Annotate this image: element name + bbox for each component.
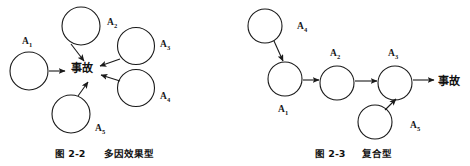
node-circle-r-a4[interactable] (248, 9, 282, 43)
figure-container: 事故 A1 A2 A3 A4 A5 图 2-2 多因效果型 (0, 0, 470, 166)
diagram-canvas: 事故 A1 A2 A3 A4 A5 图 2-2 多因效果型 (0, 0, 470, 166)
right-outcome-label: 事故 (438, 74, 461, 88)
caption-right-title: 复合型 (361, 148, 392, 159)
node-circle-r-a2[interactable] (320, 66, 354, 100)
node-label-r-a3: A3 (388, 48, 399, 60)
edge-r-a4-to-a1 (274, 41, 283, 61)
node-circle-a1[interactable] (10, 52, 48, 90)
node-label-a1: A1 (22, 36, 32, 48)
node-circle-a4[interactable] (118, 70, 155, 107)
node-label-a2: A2 (107, 17, 117, 29)
edge-a4-to-center (101, 75, 120, 81)
node-circle-r-a5[interactable] (358, 105, 392, 139)
edge-a5-to-center (78, 82, 88, 96)
node-label-r-a4: A4 (297, 21, 308, 33)
figure-right-group: 事故 A4 A1 A2 A3 A5 图 2-3 复合型 (248, 9, 461, 159)
caption-right-number: 图 2-3 (315, 148, 345, 159)
node-circle-a5[interactable] (52, 95, 90, 133)
node-label-a5: A5 (95, 123, 106, 135)
left-node-labels: A1 A2 A3 A4 A5 (22, 17, 171, 135)
node-circle-r-a3[interactable] (378, 66, 412, 100)
node-label-r-a2: A2 (330, 48, 340, 60)
edge-a3-to-center (100, 59, 120, 66)
caption-left-number: 图 2-2 (55, 148, 85, 159)
node-label-a4: A4 (160, 91, 171, 103)
node-circle-a2[interactable] (62, 7, 100, 45)
figure-left-group: 事故 A1 A2 A3 A4 A5 图 2-2 多因效果型 (10, 7, 171, 159)
node-label-a3: A3 (160, 39, 171, 51)
node-label-r-a1: A1 (278, 104, 288, 116)
edge-r-a5-to-a3 (385, 99, 396, 110)
right-node-labels: A4 A1 A2 A3 A5 (278, 21, 421, 132)
node-label-r-a5: A5 (410, 120, 421, 132)
right-nodes (248, 9, 412, 139)
edge-a2-to-center (71, 44, 84, 61)
node-circle-r-a1[interactable] (268, 62, 302, 96)
left-center-label: 事故 (71, 61, 94, 75)
caption-left-title: 多因效果型 (104, 148, 154, 159)
node-circle-a3[interactable] (118, 28, 155, 65)
